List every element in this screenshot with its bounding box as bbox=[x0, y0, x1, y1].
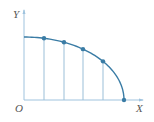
y-axis-label: Y bbox=[13, 9, 19, 20]
curve-point bbox=[62, 40, 66, 44]
origin-label: O bbox=[15, 103, 23, 114]
vertical-guides bbox=[44, 38, 103, 100]
y-axis-arrow-icon bbox=[23, 9, 26, 14]
curve-point bbox=[81, 47, 85, 51]
curve-point bbox=[101, 59, 105, 63]
diagram: Y X O bbox=[0, 0, 154, 122]
x-axis-label: X bbox=[136, 103, 143, 114]
plot bbox=[0, 0, 154, 122]
curve-point bbox=[42, 36, 46, 40]
curve-point bbox=[122, 98, 126, 102]
curve-points bbox=[42, 36, 126, 102]
curve bbox=[24, 37, 124, 100]
